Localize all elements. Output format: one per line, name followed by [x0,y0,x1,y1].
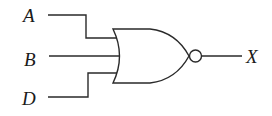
nor-gate-diagram: A B D X [0,0,272,116]
inversion-bubble [190,50,202,62]
output-label-x: X [245,46,259,67]
nor-gate-body [113,29,189,83]
input-label-a: A [21,5,35,26]
input-wire-d [48,73,117,97]
input-label-b: B [24,49,36,70]
input-wire-a [48,15,117,38]
input-label-d: D [21,88,36,109]
